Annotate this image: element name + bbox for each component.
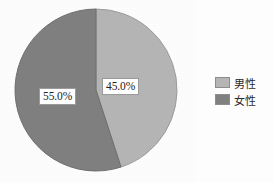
pie-plot-area (0, 0, 196, 182)
pie-chart-figure: 45.0% 55.0% 男性 女性 (0, 0, 274, 182)
legend-label-female: 女性 (234, 92, 256, 108)
pie-label-male: 45.0% (102, 78, 139, 95)
pie-svg (0, 0, 196, 182)
chart-legend: 男性 女性 (215, 74, 273, 108)
pie-label-female: 55.0% (39, 88, 76, 105)
legend-label-male: 男性 (234, 75, 256, 91)
legend-item-male[interactable]: 男性 (215, 74, 273, 91)
legend-swatch-male-icon (215, 77, 230, 88)
legend-swatch-female-icon (215, 94, 230, 105)
legend-item-female[interactable]: 女性 (215, 91, 273, 108)
